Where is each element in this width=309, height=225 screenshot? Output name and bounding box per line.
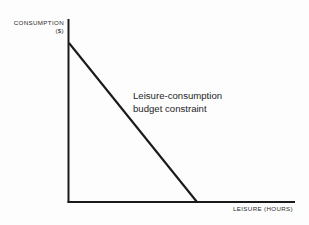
y-axis-label: CONSUMPTION ($) [6,19,64,35]
y-axis-label-text: CONSUMPTION [14,19,64,26]
y-axis-units-text: ($) [6,27,64,35]
x-axis-label: LEISURE (HOURS) [233,205,293,213]
annotation-line-1: Leisure-consumption [133,90,222,103]
budget-constraint-line [69,43,197,202]
budget-constraint-annotation: Leisure-consumption budget constraint [133,90,222,115]
figure-canvas: CONSUMPTION ($) LEISURE (HOURS) Leisure-… [0,0,309,225]
annotation-line-2: budget constraint [133,103,222,116]
